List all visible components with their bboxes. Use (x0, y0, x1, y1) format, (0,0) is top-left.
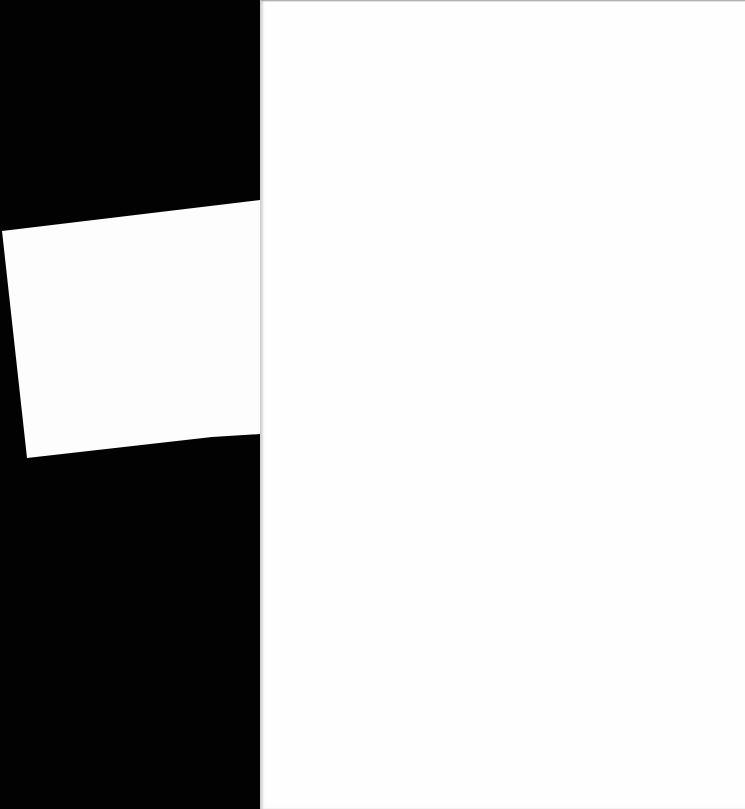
large-paper-sheet (260, 0, 745, 809)
